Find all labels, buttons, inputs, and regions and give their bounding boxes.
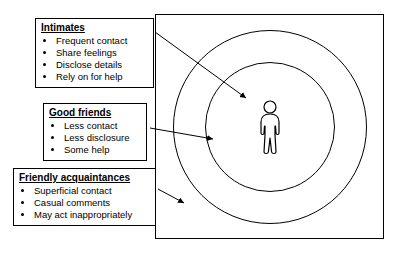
person-figure-icon bbox=[255, 100, 285, 155]
diagram-frame bbox=[155, 14, 384, 239]
callout-good-friends-list: Less contact Less disclosure Some help bbox=[49, 120, 141, 156]
list-item: Less contact bbox=[64, 120, 141, 132]
callout-good-friends: Good friends Less contact Less disclosur… bbox=[43, 103, 147, 161]
list-item: Disclose details bbox=[56, 59, 148, 71]
list-item: Share feelings bbox=[56, 47, 148, 59]
list-item: Frequent contact bbox=[56, 35, 148, 47]
callout-good-friends-title: Good friends bbox=[49, 107, 141, 119]
callout-intimates: Intimates Frequent contact Share feeling… bbox=[35, 18, 154, 88]
list-item: Casual comments bbox=[34, 197, 150, 209]
diagram-page: Intimates Frequent contact Share feeling… bbox=[0, 0, 397, 253]
list-item: May act inappropriately bbox=[34, 209, 150, 221]
list-item: Superficial contact bbox=[34, 185, 150, 197]
callout-intimates-title: Intimates bbox=[41, 22, 148, 34]
callout-friendly-acquaintances-list: Superficial contact Casual comments May … bbox=[19, 185, 150, 221]
callout-friendly-acquaintances-title: Friendly acquaintances bbox=[19, 172, 150, 184]
callout-intimates-list: Frequent contact Share feelings Disclose… bbox=[41, 35, 148, 83]
list-item: Rely on for help bbox=[56, 71, 148, 83]
callout-friendly-acquaintances: Friendly acquaintances Superficial conta… bbox=[13, 168, 156, 226]
list-item: Some help bbox=[64, 144, 141, 156]
list-item: Less disclosure bbox=[64, 132, 141, 144]
